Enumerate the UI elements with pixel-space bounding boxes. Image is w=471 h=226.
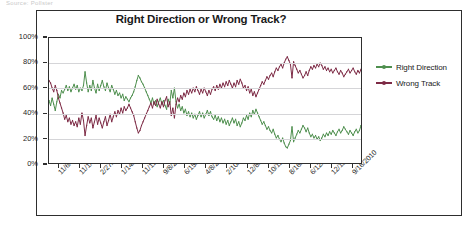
series-point [348,69,349,70]
series-point [340,70,341,71]
series-point [155,100,156,101]
series-point [280,141,281,142]
series-point [149,106,150,107]
series-point [318,66,319,67]
series-point [166,109,167,110]
series-point [149,99,150,100]
series-point [83,120,84,121]
series-point [215,115,216,116]
series-point [91,117,92,118]
y-tick-label: 0% [10,160,38,168]
series-point [89,85,90,86]
series-point [240,79,241,80]
series-point [136,80,137,81]
series-point [154,101,155,102]
series-point [83,85,84,86]
series-point [150,102,151,103]
series-point [102,80,103,81]
series-point [346,131,347,132]
series-point [124,100,125,101]
y-tick-mark [43,36,47,37]
series-point [359,72,360,73]
series-point [113,116,114,117]
series-point [146,91,147,92]
series-point [56,90,57,91]
series-point [291,126,292,127]
series-point [324,66,325,67]
series-point [334,70,335,71]
series-point [56,101,57,102]
series-point [235,86,236,87]
series-point [119,92,120,93]
series-point [188,94,189,95]
series-point [128,101,129,102]
series-point [49,100,50,101]
series-point [59,97,60,98]
chart-legend: Right Direction Wrong Track [376,60,460,92]
series-point [185,109,186,110]
series-lines [49,38,361,163]
series-point [263,84,264,85]
gridline [49,114,361,115]
series-point [94,121,95,122]
series-point [130,97,131,98]
series-point [334,132,335,133]
legend-item-wrong-track[interactable]: Wrong Track [376,76,460,90]
series-point [197,90,198,91]
series-point [86,82,87,83]
series-point [143,121,144,122]
series-point [78,91,79,92]
series-point [271,72,272,73]
plot-area [48,37,362,164]
series-point [351,70,352,71]
series-point [284,142,285,143]
series-point [106,125,107,126]
series-point [138,132,139,133]
series-point [310,136,311,137]
y-tick-label: 100% [10,33,38,41]
series-point [81,90,82,91]
series-point [265,80,266,81]
series-point [323,69,324,70]
series-point [204,117,205,118]
series-point [70,91,71,92]
series-point [114,94,115,95]
y-tick-label: 20% [10,135,38,143]
series-point [174,117,175,118]
series-point [307,75,308,76]
chart-page: Source: Pollster Right Direction or Wron… [0,0,471,226]
series-point [301,129,302,130]
series-point [276,67,277,68]
gridline [49,139,361,140]
series-point [260,120,261,121]
series-point [232,117,233,118]
legend-item-right-direction[interactable]: Right Direction [376,60,460,74]
chart-title: Right Direction or Wrong Track? [36,13,366,25]
series-point [218,116,219,117]
series-point [53,91,54,92]
series-point [287,56,288,57]
series-point [213,86,214,87]
gridline [49,88,361,89]
series-point [190,116,191,117]
series-point [328,67,329,68]
series-point [312,134,313,135]
series-point [248,119,249,120]
series-point [326,132,327,133]
series-point [270,130,271,131]
series-point [102,127,103,128]
series-point [235,119,236,120]
series-point [288,144,289,145]
series-point [157,106,158,107]
series-point [273,129,274,130]
series-point [128,104,129,105]
series-point [77,85,78,86]
series-point [302,77,303,78]
series-point [233,122,234,123]
series-point [202,92,203,93]
series-point [230,84,231,85]
series-point [224,119,225,120]
series-point [360,69,361,70]
series-point [133,91,134,92]
series-point [304,127,305,128]
